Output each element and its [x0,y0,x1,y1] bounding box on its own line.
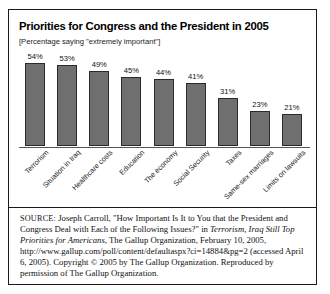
section-divider [9,207,316,208]
bar [121,77,141,146]
x-axis-label: Education [118,148,147,177]
x-axis-label: Terrorism [23,148,51,176]
bar-group: 41% [186,83,206,146]
figure-container: Priorities for Congress and the Presiden… [8,9,317,285]
bar-group: 21% [282,114,302,146]
chart-subtitle: [Percentage saying "extremely important"… [19,37,160,46]
bar-value-label: 44% [156,68,171,77]
bar [218,98,238,146]
bar [89,71,109,146]
bar-group: 49% [89,71,109,146]
bar-group: 31% [218,98,238,146]
bar-group: 53% [57,65,77,146]
bar [250,111,270,146]
source-note: SOURCE: Joseph Carroll, "How Important I… [20,213,307,280]
x-axis-label: Taxes [223,148,243,168]
bar-value-label: 54% [27,52,42,61]
chart-title: Priorities for Congress and the Presiden… [19,20,269,32]
bar [282,114,302,146]
bar [25,63,45,146]
bar-group: 44% [154,79,174,146]
bar-value-label: 45% [124,66,139,75]
bar-group: 54% [25,63,45,146]
bar-value-label: 53% [60,54,75,63]
bar [57,65,77,146]
bar-value-label: 41% [188,72,203,81]
bar-value-label: 31% [220,87,235,96]
bar-value-label: 49% [92,60,107,69]
bar [154,79,174,146]
bar-value-label: 23% [252,100,267,109]
source-label: SOURCE: [20,214,56,223]
bar-group: 45% [121,77,141,146]
bar-group: 23% [250,111,270,146]
bar [186,83,206,146]
plot-area: 54%53%49%45%44%41%31%23%21% [19,54,308,146]
bar-value-label: 21% [284,103,299,112]
x-axis-labels: TerrorismSituation in IraqHealthcare cos… [19,148,310,200]
